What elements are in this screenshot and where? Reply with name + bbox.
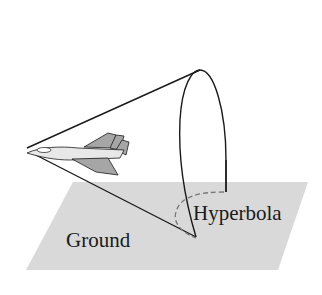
- ground-plane: [26, 182, 308, 270]
- ground-label: Ground: [66, 228, 130, 253]
- hyperbola-label: Hyperbola: [193, 201, 282, 226]
- jet-icon: [27, 133, 129, 175]
- sonic-boom-diagram: [0, 0, 322, 295]
